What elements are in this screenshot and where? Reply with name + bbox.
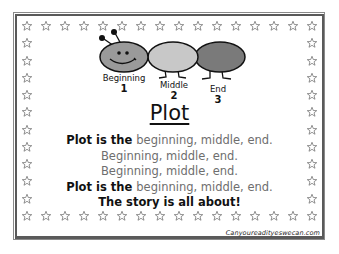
poem-line-tail: beginning, middle, end. — [136, 133, 272, 147]
caterpillar-illustration — [0, 0, 339, 254]
segment-number-2: 2 — [152, 91, 196, 101]
segment-label-middle: Middle — [152, 81, 196, 90]
antenna-tip-icon — [99, 35, 105, 41]
segment-label-end: End — [200, 85, 236, 94]
page-title: Plot — [0, 103, 339, 124]
poem-line: Plot is the beginning, middle, end. — [0, 180, 339, 196]
title-text: Plot — [150, 101, 190, 125]
poem-line-tail: Beginning, middle, end. — [101, 149, 238, 163]
poem-line-tail: beginning, middle, end. — [136, 180, 272, 194]
antenna-tip-icon — [111, 29, 117, 35]
website-credit: Canyoureadityeswecan.com — [226, 229, 320, 237]
end-segment — [195, 42, 245, 72]
poem-line-tail: Beginning, middle, end. — [101, 164, 238, 178]
poem-line: Beginning, middle, end. — [0, 149, 339, 165]
segment-label-beginning: Beginning — [96, 74, 152, 83]
middle-segment — [148, 42, 198, 72]
segment-number-1: 1 — [96, 84, 152, 94]
eye-icon — [125, 51, 129, 55]
poem-line-lead: Plot is the — [66, 180, 136, 194]
poem-line: The story is all about! — [0, 195, 339, 211]
poem-line: Plot is the beginning, middle, end. — [0, 133, 339, 149]
eye-icon — [117, 51, 121, 55]
beginning-segment-head — [100, 42, 148, 72]
poem-line-lead: Plot is the — [66, 133, 136, 147]
poem-line: Beginning, middle, end. — [0, 164, 339, 180]
poem: Plot is the beginning, middle, end. Begi… — [0, 133, 339, 211]
poem-line-lead: The story is all about! — [98, 195, 241, 209]
